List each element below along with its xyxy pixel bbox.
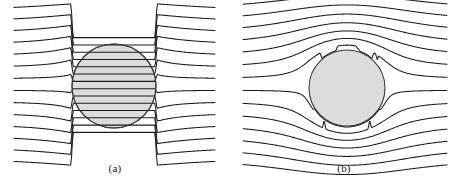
panel-b: (b)	[229, 0, 459, 188]
streamline-b-0	[243, 0, 447, 4]
streamline-a-0	[14, 4, 215, 38]
panel-a: (a)	[0, 0, 230, 188]
streamline-plot-a	[0, 0, 230, 188]
streamline-a-12	[14, 125, 215, 154]
panel-b-caption: (b)	[229, 161, 459, 175]
inclusion-disk-b	[309, 50, 385, 126]
figure-root: (a) (b)	[0, 0, 459, 188]
streamline-plot-b	[229, 0, 459, 188]
streamline-b-4	[243, 31, 447, 52]
panel-a-caption: (a)	[0, 161, 230, 175]
streamline-b-2	[243, 14, 447, 28]
streamline-b-11	[243, 141, 447, 157]
